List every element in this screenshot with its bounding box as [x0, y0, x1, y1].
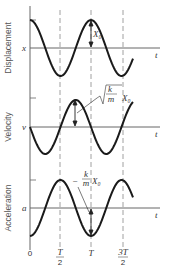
tick-three-half-period: 3T 2 — [117, 247, 129, 266]
svg-text:T: T — [57, 247, 63, 257]
displacement-ylabel: Displacement — [3, 22, 13, 74]
acceleration-ylabel: Acceleration — [3, 184, 13, 231]
velocity-amplitude-label: k m X₀ — [97, 84, 131, 104]
svg-text:−: − — [72, 176, 78, 186]
displacement-amplitude-label: X₀ — [92, 29, 102, 39]
velocity-symbol: v — [22, 122, 26, 132]
tick-period: T — [88, 248, 94, 258]
acceleration-t-label: t — [155, 210, 158, 220]
svg-text:3T: 3T — [117, 247, 129, 257]
acceleration-symbol: a — [22, 203, 27, 213]
velocity-t-label: t — [155, 129, 158, 139]
svg-text:X₀: X₀ — [91, 176, 101, 186]
svg-text:m: m — [108, 94, 115, 104]
svg-text:X₀: X₀ — [121, 93, 131, 103]
svg-text:2: 2 — [121, 258, 126, 266]
velocity-ylabel: Velocity — [3, 112, 13, 142]
svg-text:2: 2 — [58, 258, 63, 266]
shm-diagram: Displacement Velocity Acceleration x v a… — [0, 0, 169, 266]
displacement-t-label: t — [155, 50, 158, 60]
svg-text:m: m — [83, 178, 90, 188]
svg-text:k: k — [108, 84, 113, 94]
tick-half-period: T 2 — [56, 247, 64, 266]
acceleration-amplitude-label: − k m X₀ — [72, 169, 101, 188]
tick-zero: 0 — [28, 249, 33, 258]
displacement-symbol: x — [21, 43, 26, 53]
